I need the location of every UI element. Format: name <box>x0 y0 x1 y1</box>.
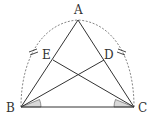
label-c: C <box>138 101 147 115</box>
label-d: D <box>104 48 114 62</box>
segment-ab <box>21 20 78 107</box>
segment-ce <box>53 60 134 107</box>
dashed-arc <box>21 20 134 107</box>
tick-mark-right <box>117 49 126 55</box>
tick-mark-left <box>29 49 38 55</box>
label-a: A <box>73 3 83 17</box>
segment-bd <box>21 60 104 107</box>
segment-ac <box>78 20 134 107</box>
label-e: E <box>42 48 51 62</box>
label-b: B <box>6 101 15 115</box>
triangle-diagram: A B C D E <box>0 0 157 124</box>
